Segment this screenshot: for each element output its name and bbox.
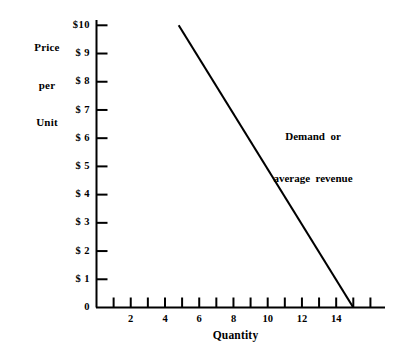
y-tick-label: $ 2 bbox=[56, 245, 90, 256]
x-tick-label: 10 bbox=[258, 313, 278, 324]
x-tick-label: 2 bbox=[121, 313, 141, 324]
demand-curve-chart: Price per Unit Quantity Demand or averag… bbox=[0, 0, 403, 353]
x-tick-label: 12 bbox=[292, 313, 312, 324]
y-tick-label: $ 9 bbox=[56, 47, 90, 58]
demand-curve-annotation: Demand or average revenue bbox=[248, 101, 378, 213]
y-tick-marks bbox=[97, 25, 108, 279]
y-tick-label: $ 1 bbox=[56, 273, 90, 284]
annotation-line-1: Demand or bbox=[248, 129, 378, 143]
y-tick-label: $ 5 bbox=[56, 160, 90, 171]
y-tick-label: $ 7 bbox=[56, 104, 90, 115]
y-tick-label: $ 3 bbox=[56, 216, 90, 227]
x-tick-label: 4 bbox=[155, 313, 175, 324]
x-tick-label: 6 bbox=[189, 313, 209, 324]
y-tick-label: $ 4 bbox=[56, 188, 90, 199]
y-tick-label: $ 6 bbox=[56, 132, 90, 143]
annotation-line-2: average revenue bbox=[248, 171, 378, 185]
y-tick-label: 0 bbox=[56, 301, 90, 312]
x-tick-label: 14 bbox=[326, 313, 346, 324]
x-axis-title: Quantity bbox=[178, 329, 293, 342]
x-tick-label: 8 bbox=[224, 313, 244, 324]
x-tick-marks bbox=[114, 298, 371, 308]
y-axis-title-line-3: Unit bbox=[14, 116, 80, 129]
y-tick-label: $10 bbox=[56, 19, 90, 30]
y-tick-label: $ 8 bbox=[56, 75, 90, 86]
